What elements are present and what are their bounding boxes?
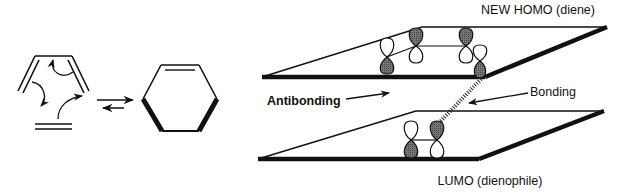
cyclohexene-product: [143, 65, 217, 131]
antibonding-label: Antibonding: [267, 94, 341, 108]
equilibrium-arrows-icon: [97, 100, 133, 108]
dienophile: [35, 124, 72, 129]
curved-arrow-icon: [32, 82, 44, 106]
lumo-label: LUMO (dienophile): [438, 174, 543, 188]
homo-plane: [262, 27, 607, 78]
diels-alder-diagram: NEW HOMO (diene) LUMO (dienophile) Antib…: [0, 0, 622, 194]
antibonding-pointer-arrow: [346, 93, 389, 99]
bonding-label: Bonding: [530, 85, 576, 99]
diene: [18, 56, 89, 93]
homo-orbital-1: [380, 38, 394, 74]
homo-orbital-4: [473, 45, 487, 78]
homo-label: NEW HOMO (diene): [481, 3, 595, 17]
curved-arrow-icon: [58, 96, 82, 119]
bonding-pointer-arrow: [469, 93, 528, 103]
electron-push-arrows: [32, 60, 82, 119]
reactants: [18, 56, 89, 129]
lumo-plane: [258, 111, 604, 159]
